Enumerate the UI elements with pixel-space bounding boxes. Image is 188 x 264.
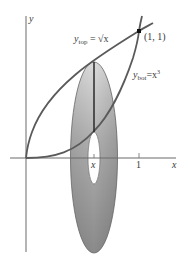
y-bot-label-exp: 3: [157, 69, 160, 75]
x-tick-label-x: x: [91, 160, 95, 170]
intersection-point-marker: [137, 29, 141, 33]
y-top-label-sub: top: [78, 38, 87, 46]
y-bot-label-eq: =x: [146, 69, 157, 80]
y-bot-label-sub: bot: [137, 74, 146, 82]
y-axis-label: y: [29, 14, 33, 24]
y-bot-label: ybot=x3: [133, 70, 160, 80]
y-top-label: ytop = √x: [74, 34, 109, 44]
x-tick-label-1: 1: [136, 160, 141, 170]
y-top-label-eq: = √x: [90, 33, 109, 44]
intersection-point-label: (1, 1): [144, 32, 166, 42]
x-axis-label: x: [172, 160, 176, 170]
